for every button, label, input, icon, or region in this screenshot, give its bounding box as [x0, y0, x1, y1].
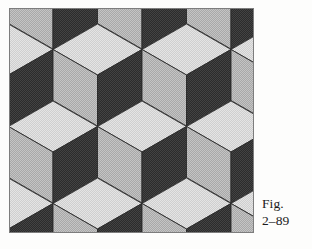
figure-caption: Fig. 2–89 [262, 195, 310, 229]
caption-line-fig: Fig. [262, 195, 310, 212]
figure-illustration-frame [9, 8, 254, 233]
figure-page: Fig. 2–89 [0, 0, 312, 249]
caption-line-number: 2–89 [262, 212, 310, 229]
cube-group [9, 8, 254, 233]
cube-tessellation-svg [9, 8, 254, 233]
